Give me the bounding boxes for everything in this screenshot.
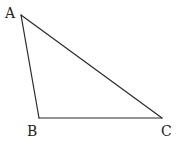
edge-ab bbox=[21, 15, 39, 118]
triangle-diagram: A B C bbox=[0, 0, 186, 145]
vertex-label-c: C bbox=[161, 123, 172, 139]
edge-ac bbox=[21, 15, 162, 118]
vertex-label-b: B bbox=[27, 123, 37, 139]
vertex-label-a: A bbox=[4, 5, 16, 21]
